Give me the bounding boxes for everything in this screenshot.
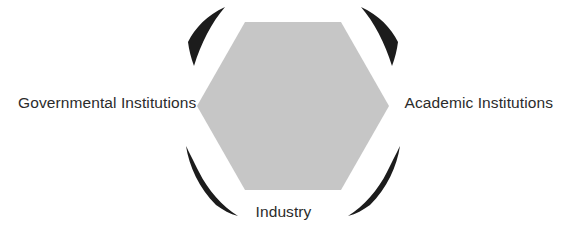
diagram-canvas xyxy=(0,0,567,230)
top-right-arc-icon xyxy=(361,7,398,66)
triad-diagram-figure: Governmental Institutions Academic Insti… xyxy=(0,0,567,230)
label-academic-institutions: Academic Institutions xyxy=(404,95,553,111)
top-left-arc-icon xyxy=(188,7,225,66)
label-industry: Industry xyxy=(0,204,567,220)
label-governmental-institutions: Governmental Institutions xyxy=(18,95,196,111)
hexagon-shape xyxy=(197,22,389,190)
